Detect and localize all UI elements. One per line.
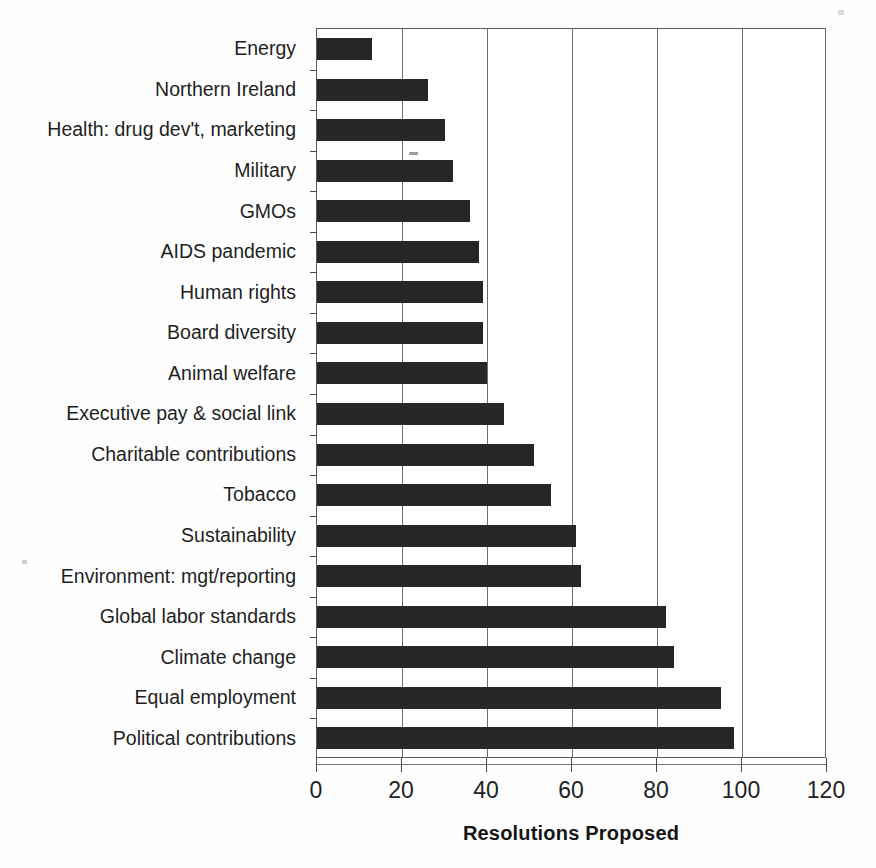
bar	[317, 38, 372, 60]
bar-row	[317, 678, 825, 719]
bar-row	[317, 718, 825, 759]
category-axis-labels: EnergyNorthern IrelandHealth: drug dev't…	[0, 28, 306, 758]
bar-row	[317, 556, 825, 597]
bar-row	[317, 394, 825, 435]
x-tick-label: 80	[621, 776, 691, 804]
category-label: Charitable contributions	[91, 443, 296, 465]
y-tick	[310, 232, 317, 233]
category-label: Tobacco	[223, 483, 296, 505]
category-label: Equal employment	[134, 686, 296, 708]
category-label: Energy	[234, 37, 296, 59]
x-tick-80	[656, 758, 657, 772]
y-tick	[310, 435, 317, 436]
plot-area	[316, 28, 826, 758]
y-tick	[310, 475, 317, 476]
x-tick-label: 100	[706, 776, 776, 804]
category-label: Environment: mgt/reporting	[61, 565, 296, 587]
y-tick	[310, 718, 317, 719]
bar	[317, 525, 576, 547]
y-tick	[310, 556, 317, 557]
bar	[317, 727, 734, 749]
bar	[317, 241, 479, 263]
bar	[317, 200, 470, 222]
x-tick-label: 40	[451, 776, 521, 804]
bar	[317, 403, 504, 425]
y-tick	[310, 110, 317, 111]
bar	[317, 565, 581, 587]
y-tick	[310, 353, 317, 354]
bar-row	[317, 637, 825, 678]
y-tick	[310, 272, 317, 273]
category-label: Political contributions	[113, 727, 296, 749]
bar-row	[317, 191, 825, 232]
y-tick	[310, 151, 317, 152]
bar-chart: EnergyNorthern IrelandHealth: drug dev't…	[0, 0, 876, 868]
category-label: Executive pay & social link	[66, 402, 296, 424]
bar	[317, 484, 551, 506]
x-tick-120	[826, 758, 827, 772]
bar	[317, 606, 666, 628]
category-label: Board diversity	[167, 321, 296, 343]
category-label: AIDS pandemic	[161, 240, 296, 262]
y-tick	[310, 637, 317, 638]
bar	[317, 687, 721, 709]
x-tick-0	[316, 758, 317, 772]
bar-row	[317, 313, 825, 354]
category-label: Global labor standards	[100, 605, 296, 627]
category-label: Human rights	[180, 281, 296, 303]
bar-row	[317, 353, 825, 394]
category-label: Military	[234, 159, 296, 181]
y-tick	[310, 70, 317, 71]
x-tick-label: 120	[791, 776, 861, 804]
y-tick	[310, 191, 317, 192]
bar	[317, 160, 453, 182]
y-tick	[310, 313, 317, 314]
y-tick	[310, 394, 317, 395]
bar	[317, 119, 445, 141]
y-tick	[310, 516, 317, 517]
category-label: Climate change	[161, 646, 297, 668]
bar	[317, 646, 674, 668]
bar-row	[317, 475, 825, 516]
category-label: Health: drug dev't, marketing	[47, 118, 296, 140]
scan-speck	[838, 10, 844, 15]
x-tick-100	[741, 758, 742, 772]
x-tick-60	[571, 758, 572, 772]
bar-row	[317, 435, 825, 476]
bar	[317, 79, 428, 101]
scan-speck	[22, 560, 27, 564]
bar	[317, 281, 483, 303]
bar	[317, 444, 534, 466]
x-tick-20	[401, 758, 402, 772]
bar-row	[317, 110, 825, 151]
x-tick-label: 20	[366, 776, 436, 804]
x-axis-title: Resolutions Proposed	[316, 822, 826, 845]
bar	[317, 362, 487, 384]
bar-row	[317, 232, 825, 273]
y-tick	[310, 678, 317, 679]
scan-speck	[409, 152, 418, 155]
x-tick-40	[486, 758, 487, 772]
category-label: GMOs	[240, 200, 296, 222]
category-label: Northern Ireland	[155, 78, 296, 100]
bar-row	[317, 70, 825, 111]
bar-row	[317, 29, 825, 70]
x-tick-label: 0	[281, 776, 351, 804]
bar-row	[317, 597, 825, 638]
category-label: Animal welfare	[168, 362, 296, 384]
bar-row	[317, 272, 825, 313]
x-tick-label: 60	[536, 776, 606, 804]
y-tick	[310, 597, 317, 598]
category-label: Sustainability	[181, 524, 296, 546]
bar-row	[317, 516, 825, 557]
bar-row	[317, 151, 825, 192]
bar	[317, 322, 483, 344]
